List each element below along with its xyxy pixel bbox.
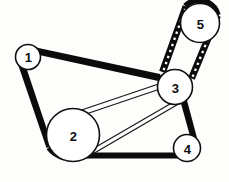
inner-belt-lower-run bbox=[89, 104, 179, 157]
belt-routing-canvas: 1 2 3 4 5 bbox=[0, 0, 229, 182]
belt-routing-diagram: 1 2 3 4 5 bbox=[0, 0, 229, 182]
belt-run-1-to-3 bbox=[25, 45, 161, 82]
pulley-3[interactable]: 3 bbox=[158, 70, 193, 105]
inner-belt-lower-run-inner bbox=[86, 101, 177, 154]
pulley-group: 1 2 3 4 5 bbox=[16, 4, 220, 162]
pulley-1-label: 1 bbox=[25, 50, 32, 65]
pulley-3-label: 3 bbox=[172, 81, 179, 96]
pulley-5-label: 5 bbox=[197, 17, 204, 32]
pulley-1[interactable]: 1 bbox=[16, 45, 41, 70]
pulley-4[interactable]: 4 bbox=[174, 135, 201, 162]
pulley-5[interactable]: 5 bbox=[181, 4, 220, 43]
pulley-2-label: 2 bbox=[70, 129, 77, 144]
pulley-2[interactable]: 2 bbox=[47, 109, 100, 162]
